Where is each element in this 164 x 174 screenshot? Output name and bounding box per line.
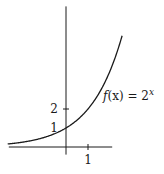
function-exponent: x xyxy=(149,87,154,97)
x-tick-label-1: 1 xyxy=(84,153,92,167)
function-body: (x) = 2 xyxy=(107,89,148,103)
exponential-chart: 112 f(x) = 2x xyxy=(0,0,164,174)
function-label: f(x) = 2x xyxy=(102,87,154,103)
y-tick-label-2: 2 xyxy=(50,102,58,116)
